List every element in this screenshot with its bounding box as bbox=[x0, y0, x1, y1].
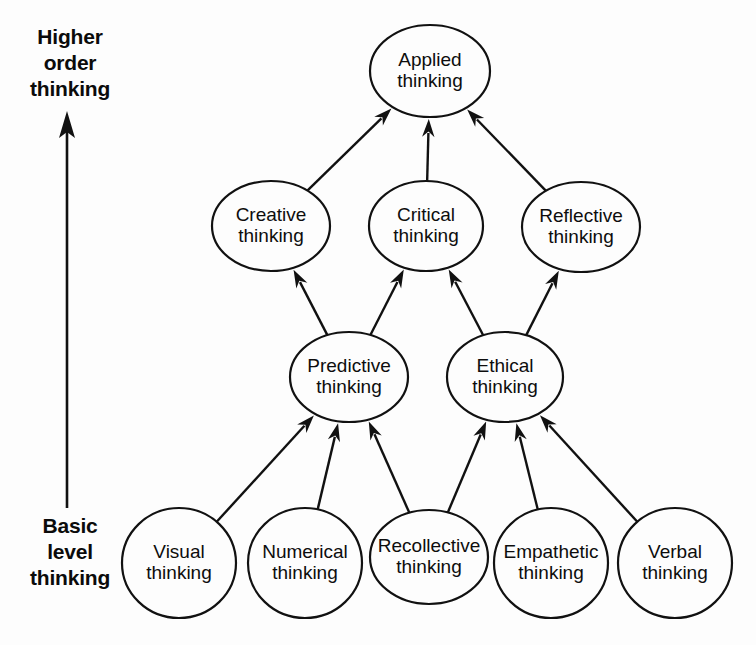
node-label-line1: Applied bbox=[398, 49, 461, 70]
edge-shaft bbox=[549, 426, 637, 522]
node-ethical[interactable]: Ethicalthinking bbox=[447, 332, 563, 422]
edge-shaft bbox=[477, 119, 546, 190]
axis-label-line: thinking bbox=[6, 565, 134, 591]
edge-shaft bbox=[526, 283, 552, 335]
node-label-visual: Visualthinking bbox=[146, 541, 212, 583]
edge-shaft bbox=[427, 133, 428, 181]
node-label-verbal: Verbalthinking bbox=[642, 541, 708, 583]
higher-order-thinking-label: Higherorderthinking bbox=[6, 24, 134, 102]
node-label-predictive: Predictivethinking bbox=[307, 355, 390, 397]
edge-shaft bbox=[520, 437, 538, 510]
edge-predictive-to-critical bbox=[370, 270, 403, 336]
node-label-line1: Numerical bbox=[262, 541, 348, 562]
node-label-line1: Creative bbox=[236, 204, 307, 225]
node-critical[interactable]: Criticalthinking bbox=[369, 181, 483, 271]
edge-shaft bbox=[448, 435, 481, 513]
node-label-line1: Empathetic bbox=[503, 541, 598, 562]
edge-ethical-to-reflective bbox=[526, 271, 559, 335]
edge-recollective-to-ethical bbox=[448, 422, 486, 513]
node-label-line2: thinking bbox=[146, 562, 212, 583]
node-visual[interactable]: Visualthinking bbox=[122, 508, 236, 618]
node-label-reflective: Reflectivethinking bbox=[539, 205, 622, 247]
edge-arrowhead bbox=[449, 269, 463, 288]
node-label-line2: thinking bbox=[548, 226, 614, 247]
node-label-line2: thinking bbox=[397, 70, 463, 91]
edge-shaft bbox=[370, 282, 397, 335]
edge-empathetic-to-ethical bbox=[515, 423, 538, 509]
edge-shaft bbox=[300, 282, 327, 335]
edge-recollective-to-predictive bbox=[369, 421, 410, 512]
edge-predictive-to-creative bbox=[294, 270, 328, 335]
edge-shaft bbox=[217, 426, 305, 522]
node-label-line2: thinking bbox=[238, 225, 304, 246]
node-label-applied: Appliedthinking bbox=[397, 49, 463, 91]
node-label-creative: Creativethinking bbox=[236, 204, 307, 246]
node-label-line2: thinking bbox=[518, 562, 584, 583]
node-label-line1: Visual bbox=[153, 541, 204, 562]
edge-shaft bbox=[318, 437, 335, 510]
node-label-ethical: Ethicalthinking bbox=[472, 355, 538, 397]
node-empathetic[interactable]: Empatheticthinking bbox=[494, 508, 608, 618]
node-verbal[interactable]: Verbalthinking bbox=[618, 508, 732, 618]
edge-reflective-to-applied bbox=[467, 109, 546, 190]
edge-numerical-to-predictive bbox=[318, 423, 340, 509]
node-label-numerical: Numericalthinking bbox=[262, 541, 348, 583]
edge-creative-to-applied bbox=[307, 109, 391, 191]
node-label-line1: Ethical bbox=[476, 355, 533, 376]
node-label-line2: thinking bbox=[472, 376, 538, 397]
edge-shaft bbox=[455, 282, 483, 336]
edge-ethical-to-critical bbox=[449, 269, 483, 335]
edge-shaft bbox=[374, 434, 409, 512]
basic-level-thinking-label: Basiclevelthinking bbox=[6, 513, 134, 591]
node-label-line2: thinking bbox=[642, 562, 708, 583]
node-label-line1: Verbal bbox=[648, 541, 702, 562]
node-numerical[interactable]: Numericalthinking bbox=[248, 508, 362, 618]
node-label-line2: thinking bbox=[393, 225, 459, 246]
axis-label-line: Basic bbox=[6, 513, 134, 539]
node-label-line2: thinking bbox=[272, 562, 338, 583]
node-label-line1: Recollective bbox=[378, 535, 480, 556]
node-label-line1: Predictive bbox=[307, 355, 390, 376]
edge-layer bbox=[217, 109, 638, 522]
diagram-page: AppliedthinkingCreativethinkingCriticalt… bbox=[0, 0, 756, 645]
edge-visual-to-predictive bbox=[217, 415, 314, 521]
node-layer: AppliedthinkingCreativethinkingCriticalt… bbox=[122, 25, 732, 618]
node-label-line2: thinking bbox=[316, 376, 382, 397]
axis-label-line: thinking bbox=[6, 76, 134, 102]
node-label-line1: Critical bbox=[397, 204, 455, 225]
node-label-line1: Reflective bbox=[539, 205, 622, 226]
node-applied[interactable]: Appliedthinking bbox=[370, 25, 490, 117]
axis-label-line: level bbox=[6, 539, 134, 565]
node-label-critical: Criticalthinking bbox=[393, 204, 459, 246]
edge-verbal-to-ethical bbox=[540, 415, 637, 522]
node-creative[interactable]: Creativethinking bbox=[212, 181, 330, 271]
upward-progression-arrow bbox=[59, 111, 75, 508]
edge-critical-to-applied bbox=[422, 119, 434, 181]
axis-label-line: Higher bbox=[6, 24, 134, 50]
node-reflective[interactable]: Reflectivethinking bbox=[522, 182, 640, 272]
node-label-line2: thinking bbox=[396, 556, 462, 577]
edge-arrowhead bbox=[294, 270, 308, 289]
edge-shaft bbox=[307, 118, 381, 190]
node-predictive[interactable]: Predictivethinking bbox=[290, 332, 408, 422]
axis-label-line: order bbox=[6, 50, 134, 76]
node-recollective[interactable]: Recollectivethinking bbox=[370, 510, 488, 604]
